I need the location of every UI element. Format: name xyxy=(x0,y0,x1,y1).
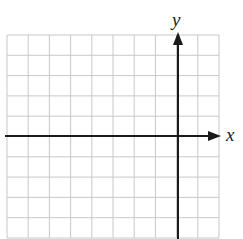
y-axis-arrow-icon xyxy=(173,32,183,45)
x-axis-label: x xyxy=(225,124,235,145)
y-axis-label: y xyxy=(170,9,181,30)
coordinate-plane: x y xyxy=(0,0,243,239)
